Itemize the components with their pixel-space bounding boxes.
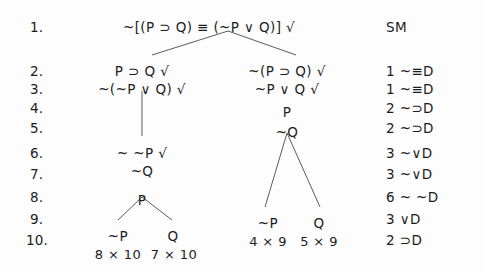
closure-marker-c4: 5 × 9 — [300, 234, 338, 249]
formula-f10d: Q — [313, 215, 324, 231]
line-number-2: 2. — [30, 63, 43, 79]
formula-f2: P ⊃ Q √ — [115, 63, 169, 79]
closure-marker-c3: 4 × 9 — [249, 234, 287, 249]
line-number-3: 3. — [30, 81, 43, 97]
line-number-7: 7. — [30, 166, 43, 182]
branch-line-right-fork-left — [265, 133, 287, 207]
formula-f8: P — [138, 192, 147, 208]
formula-f10c: ~P — [258, 215, 278, 231]
branch-line-right-fork-right — [287, 133, 320, 207]
formula-f2r: ~(P ⊃ Q) √ — [248, 63, 325, 79]
closure-marker-c2: 7 × 10 — [151, 247, 197, 262]
line-number-1: 1. — [30, 19, 43, 35]
line-number-5: 5. — [30, 120, 43, 136]
justification-line-1: SM — [386, 19, 407, 35]
justification-line-2: 1 ~≡D — [386, 63, 434, 79]
formula-f1: ~[(P ⊃ Q) ≡ (~P ∨ Q)] √ — [123, 19, 295, 35]
formula-f7: ~Q — [131, 163, 154, 179]
formula-f5r: ~Q — [276, 124, 299, 140]
formula-f10b: Q — [167, 228, 178, 244]
formula-f10a: ~P — [108, 228, 128, 244]
justification-line-3: 1 ~≡D — [386, 81, 434, 97]
line-number-6: 6. — [30, 145, 43, 161]
line-number-9: 9. — [30, 211, 43, 227]
justification-line-9: 3 ∨D — [386, 211, 421, 227]
justification-line-10: 2 ⊃D — [386, 232, 422, 248]
branch-line-left-fork-right — [142, 197, 172, 220]
formula-f4r: P — [283, 104, 292, 120]
justification-line-6: 3 ~∨D — [386, 145, 432, 161]
formula-f3r: ~P ∨ Q √ — [255, 81, 320, 97]
formula-f3: ~(~P ∨ Q) √ — [98, 81, 186, 97]
line-number-4: 4. — [30, 100, 43, 116]
closure-marker-c1: 8 × 10 — [95, 247, 141, 262]
justification-line-8: 6 ~ ~D — [386, 189, 439, 205]
line-number-8: 8. — [30, 189, 43, 205]
justification-line-4: 2 ~⊃D — [386, 100, 434, 116]
line-number-10: 10. — [26, 232, 48, 248]
justification-line-5: 2 ~⊃D — [386, 120, 434, 136]
formula-f6: ~ ~P √ — [117, 145, 167, 161]
truth-tree-diagram: 1.2.3.4.5.6.7.8.9.10. ~[(P ⊃ Q) ≡ (~P ∨ … — [0, 0, 485, 272]
justification-line-7: 3 ~∨D — [386, 166, 432, 182]
